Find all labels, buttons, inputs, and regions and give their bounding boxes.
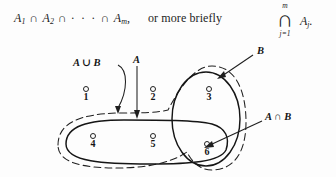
intersection-operator-2: ∩ <box>58 11 67 25</box>
label-a-union-b-text: A ∪ B <box>73 57 100 68</box>
point-2-label: 2 <box>146 91 160 102</box>
label-a-union-b: A ∪ B <box>73 56 100 68</box>
point-6-label: 6 <box>200 146 214 157</box>
formula-comma: , <box>127 11 130 25</box>
big-intersection-icon: ∩ <box>272 10 298 29</box>
point-4-label: 4 <box>86 138 100 149</box>
big-operator-term: Aj. <box>300 14 313 29</box>
a-union-b-leader-line <box>118 65 126 108</box>
big-operator-stack: m ∩ j=1 <box>272 2 298 38</box>
formula-term-a2: A <box>42 11 50 25</box>
a-arrowhead <box>134 110 140 119</box>
formula-ellipsis: · · · <box>71 11 97 25</box>
set-a-union-b-outline <box>58 66 246 170</box>
formula-row: A1∩A2∩· · ·∩Am, or more briefly m ∩ j=1 … <box>0 0 336 42</box>
venn-diagram: A ∪ B A B A ∩ B 1 2 3 4 5 6 <box>0 40 336 177</box>
label-b-text: B <box>257 45 264 56</box>
label-a-text: A <box>133 54 140 65</box>
formula-term-a1: A <box>14 11 22 25</box>
label-a-intersect-b-text: A ∩ B <box>265 111 291 122</box>
intersection-operator-1: ∩ <box>30 11 39 25</box>
point-5-label: 5 <box>146 138 160 149</box>
point-1-label: 1 <box>79 91 93 102</box>
big-operator-lower-index: j=1 <box>272 29 298 38</box>
point-3-label: 3 <box>202 91 216 102</box>
label-b: B <box>257 45 264 56</box>
formula-connector-text: or more briefly <box>148 11 222 26</box>
figure-page: A1∩A2∩· · ·∩Am, or more briefly m ∩ j=1 … <box>0 0 336 177</box>
intersection-operator-3: ∩ <box>101 11 110 25</box>
big-operator-trailing-punct: . <box>310 14 313 28</box>
label-a: A <box>133 54 140 65</box>
formula-sub-1: 1 <box>22 17 26 26</box>
intersection-expanded-formula: A1∩A2∩· · ·∩Am, <box>14 11 130 26</box>
label-a-intersect-b: A ∩ B <box>265 111 291 122</box>
b-leader-line <box>222 55 253 76</box>
formula-sub-2: 2 <box>50 17 54 26</box>
venn-diagram-canvas <box>0 40 336 177</box>
